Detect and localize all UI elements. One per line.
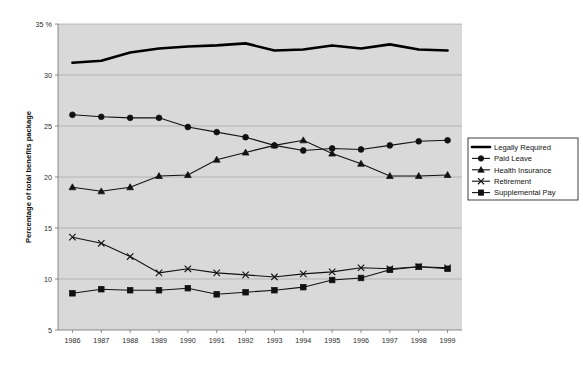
marker-square: [416, 264, 422, 270]
y-tick-label: 20: [44, 173, 52, 182]
legend: Legally RequiredPaid LeaveHealth Insuran…: [468, 138, 578, 200]
marker-square: [300, 284, 306, 290]
y-tick-label: 15: [44, 224, 52, 233]
marker-circle: [214, 129, 220, 135]
x-tick-label: 1996: [353, 336, 369, 345]
marker-circle: [185, 124, 191, 130]
line-chart: 5101520253035 % 198619871988198919901991…: [0, 0, 583, 365]
y-axis-title-text: Percentage of total benefits package: [24, 111, 33, 243]
y-tick-label: 25: [44, 122, 52, 131]
x-tick-label: 1992: [238, 336, 254, 345]
y-tick-label: 30: [44, 71, 52, 80]
marker-square: [478, 190, 483, 195]
marker-circle: [127, 115, 133, 121]
x-tick-label: 1999: [440, 336, 456, 345]
x-tick-label: 1991: [209, 336, 225, 345]
marker-circle: [243, 134, 249, 140]
marker-square: [329, 277, 335, 283]
x-tick-label: 1990: [180, 336, 196, 345]
marker-square: [98, 286, 104, 292]
y-tick-label: 35 %: [36, 20, 53, 29]
marker-square: [127, 287, 133, 293]
chart-container: 5101520253035 % 198619871988198919901991…: [0, 0, 583, 365]
marker-square: [214, 292, 220, 298]
marker-circle: [300, 148, 306, 154]
marker-square: [243, 289, 249, 295]
y-tick-label: 5: [48, 326, 52, 335]
y-tick-label: 10: [44, 275, 52, 284]
x-tick-label: 1997: [382, 336, 398, 345]
marker-circle: [70, 112, 76, 118]
x-tick-label: 1994: [295, 336, 311, 345]
x-tick-label: 1998: [411, 336, 427, 345]
marker-square: [272, 287, 278, 293]
legend-item-label: Health Insurance: [494, 166, 551, 175]
marker-circle: [478, 156, 484, 162]
x-tick-label: 1989: [151, 336, 167, 345]
x-tick-label: 1987: [93, 336, 109, 345]
x-tick-label: 1988: [122, 336, 138, 345]
marker-square: [156, 287, 162, 293]
legend-item-label: Paid Leave: [494, 154, 532, 163]
marker-square: [70, 290, 76, 296]
legend-item-label: Retirement: [494, 177, 532, 186]
x-tick-label: 1993: [266, 336, 282, 345]
marker-circle: [156, 115, 162, 121]
marker-circle: [98, 114, 104, 120]
legend-item-label: Legally Required: [494, 143, 551, 152]
marker-square: [387, 267, 393, 273]
marker-circle: [387, 142, 393, 148]
x-tick-label: 1986: [64, 336, 80, 345]
marker-circle: [358, 147, 364, 153]
marker-circle: [416, 138, 422, 144]
y-axis-title: Percentage of total benefits package: [24, 111, 33, 243]
marker-circle: [445, 137, 451, 143]
marker-square: [445, 266, 451, 272]
marker-square: [185, 285, 191, 291]
x-tick-label: 1995: [324, 336, 340, 345]
legend-item-label: Supplemental Pay: [494, 188, 556, 197]
marker-square: [358, 275, 364, 281]
